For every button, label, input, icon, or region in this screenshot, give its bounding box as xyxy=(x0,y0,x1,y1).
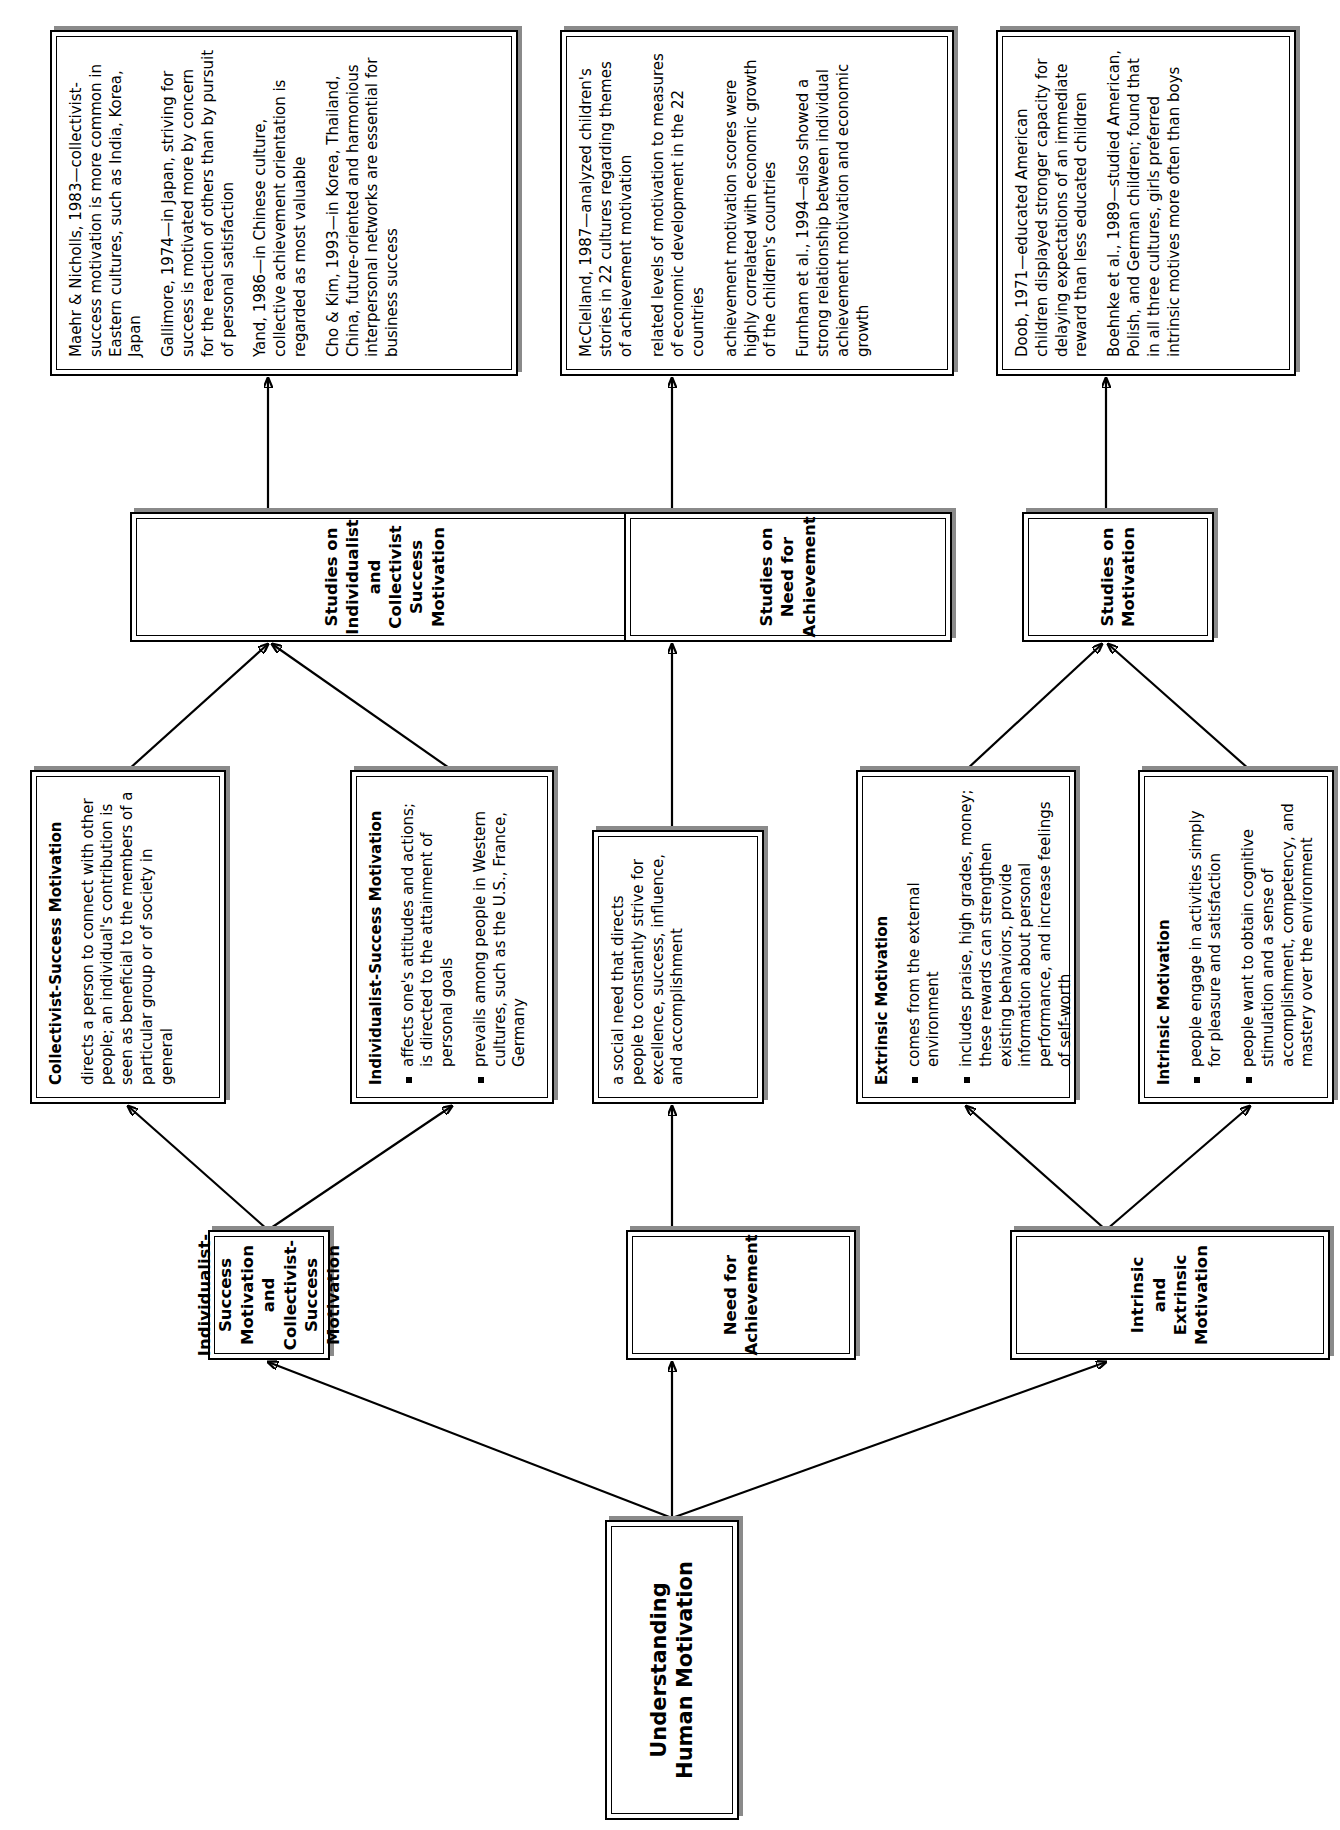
node-studies-success-motivation-detail[interactable]: Maehr & Nicholls, 1983—collectivist-succ… xyxy=(50,30,518,376)
studies-success-label: Studies on Individualist and Collectivis… xyxy=(321,519,450,634)
node-individualist-success-motivation[interactable]: Individualist-Success Motivation affects… xyxy=(350,770,554,1104)
node-extrinsic-motivation[interactable]: Extrinsic Motivation comes from the exte… xyxy=(856,770,1076,1104)
intrinsic-heading: Intrinsic Motivation xyxy=(1155,789,1175,1085)
concept-map: Understanding Human Motivation Individua… xyxy=(0,0,1340,1830)
list-item: prevails among people in Western culture… xyxy=(471,789,530,1085)
branch-need-label: Need for Achievement xyxy=(720,1234,763,1355)
list-item: people want to obtain cognitive stimulat… xyxy=(1239,789,1318,1085)
node-studies-motivation-label[interactable]: Studies on Motivation xyxy=(1022,512,1214,642)
edge-branch-to-intrinsic xyxy=(1106,1106,1250,1230)
individualist-bullets: affects one's attitudes and actions; is … xyxy=(399,789,531,1085)
node-collectivist-success-motivation[interactable]: Collectivist-Success Motivation directs … xyxy=(30,770,226,1104)
node-root[interactable]: Understanding Human Motivation xyxy=(605,1520,739,1820)
study-item: achievement motivation scores were highl… xyxy=(722,49,781,357)
node-studies-success-motivation-label[interactable]: Studies on Individualist and Collectivis… xyxy=(130,512,640,642)
list-item: people engage in activities simply for p… xyxy=(1187,789,1227,1085)
root-title: Understanding Human Motivation xyxy=(646,1539,699,1801)
study-item: Doob, 1971—educated American children di… xyxy=(1013,49,1092,357)
node-need-for-achievement-detail[interactable]: a social need that directs people to con… xyxy=(592,830,764,1104)
diagram-canvas: Understanding Human Motivation Individua… xyxy=(0,0,1340,1830)
collectivist-body: directs a person to connect with other p… xyxy=(79,789,178,1085)
study-item: McClelland, 1987—analyzed children's sto… xyxy=(577,49,636,357)
node-branch-need-for-achievement[interactable]: Need for Achievement xyxy=(626,1230,856,1360)
node-intrinsic-motivation[interactable]: Intrinsic Motivation people engage in ac… xyxy=(1138,770,1334,1104)
branch-success-line1: Individualist-Success Motivation xyxy=(194,1234,258,1356)
study-item: related levels of motivation to measures… xyxy=(649,49,708,357)
list-item: affects one's attitudes and actions; is … xyxy=(399,789,458,1085)
list-item: comes from the external environment xyxy=(905,789,945,1085)
branch-success-line2: and xyxy=(258,1278,279,1313)
branch-success-line3: Collectivist-Success Motivation xyxy=(280,1240,344,1350)
edge-success-to-collectivist xyxy=(128,1106,268,1230)
individualist-heading: Individualist-Success Motivation xyxy=(367,789,387,1085)
edge-branch-to-extrinsic xyxy=(966,1106,1106,1230)
edge-root-to-success xyxy=(268,1362,672,1518)
edge-success-to-individualist xyxy=(268,1106,452,1230)
study-item: Boehnke et al., 1989—studied American, P… xyxy=(1105,49,1184,357)
collectivist-heading: Collectivist-Success Motivation xyxy=(47,789,67,1085)
studies-need-label: Studies on Need for Achievement xyxy=(756,516,820,637)
need-body: a social need that directs people to con… xyxy=(609,849,688,1085)
intrinsic-bullets: people engage in activities simply for p… xyxy=(1187,789,1319,1085)
studies-motivation-label: Studies on Motivation xyxy=(1097,527,1140,627)
list-item: includes praise, high grades, money; the… xyxy=(957,789,1076,1085)
extrinsic-bullets: comes from the external environment incl… xyxy=(905,789,1076,1085)
node-studies-need-label[interactable]: Studies on Need for Achievement xyxy=(624,512,952,642)
study-item: Gallimore, 1974—in Japan, striving for s… xyxy=(159,49,238,357)
edge-root-to-intrinsic xyxy=(672,1362,1106,1518)
edge-intrinsic-to-studies xyxy=(1108,644,1250,770)
node-studies-need-detail[interactable]: McClelland, 1987—analyzed children's sto… xyxy=(560,30,954,376)
node-branch-intrinsic-extrinsic[interactable]: Intrinsic and Extrinsic Motivation xyxy=(1010,1230,1330,1360)
node-studies-motivation-detail[interactable]: Doob, 1971—educated American children di… xyxy=(996,30,1296,376)
edge-collectivist-to-studies xyxy=(128,644,268,770)
study-item: Maehr & Nicholls, 1983—collectivist-succ… xyxy=(67,49,146,357)
edge-individualist-to-studies xyxy=(272,644,452,770)
node-branch-success-motivation[interactable]: Individualist-Success Motivation and Col… xyxy=(208,1230,330,1360)
extrinsic-heading: Extrinsic Motivation xyxy=(873,789,893,1085)
study-item: Cho & Kim, 1993—in Korea, Thailand, Chin… xyxy=(324,49,403,357)
edge-extrinsic-to-studies xyxy=(966,644,1102,770)
study-item: Furnham et al., 1994—also showed a stron… xyxy=(794,49,873,357)
branch-intrinsic-label: Intrinsic and Extrinsic Motivation xyxy=(1127,1245,1213,1345)
study-item: Yand, 1986—in Chinese culture, collectiv… xyxy=(251,49,310,357)
